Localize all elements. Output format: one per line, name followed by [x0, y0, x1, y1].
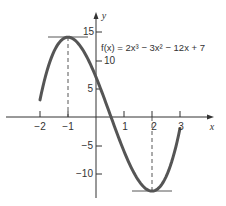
function-plot: −2 −1 1 2 3 x 15 10 5 −5 −10 y f(x) = 2x…: [0, 0, 226, 206]
axes: [6, 12, 214, 198]
y-tick-label: −10: [76, 168, 93, 179]
function-formula: f(x) = 2x³ − 3x² − 12x + 7: [101, 42, 205, 53]
y-tick-label: 15: [83, 26, 95, 37]
x-axis-arrow-icon: [207, 115, 214, 120]
x-axis-label: x: [209, 121, 215, 132]
y-tick-label: −5: [82, 140, 94, 151]
y-tick-label: 5: [87, 83, 93, 94]
y-ticks: [96, 32, 102, 174]
x-tick-label: 3: [178, 121, 184, 132]
x-tick-label: 1: [122, 121, 128, 132]
x-tick-label: 2: [151, 121, 157, 132]
x-tick-label: −2: [34, 121, 46, 132]
y-axis-label: y: [101, 10, 107, 21]
y-tick-label: 10: [104, 55, 116, 66]
y-axis-arrow-icon: [94, 12, 99, 19]
x-tick-label: −1: [62, 121, 74, 132]
